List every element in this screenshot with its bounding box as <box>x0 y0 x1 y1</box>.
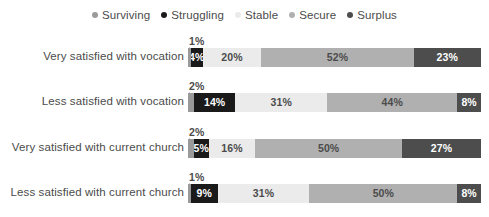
legend-swatch-icon <box>289 12 295 18</box>
legend-item-label: Surplus <box>357 9 397 21</box>
bar-segment-struggling[interactable]: 4% <box>191 48 203 67</box>
legend-item-struggling[interactable]: Struggling <box>161 9 224 21</box>
legend-swatch-icon <box>235 12 241 18</box>
bar-segment-stable[interactable]: 31% <box>218 184 310 203</box>
legend-item-label: Struggling <box>171 9 224 21</box>
legend-item-secure[interactable]: Secure <box>289 9 336 21</box>
bar-segment-secure[interactable]: 52% <box>261 48 413 67</box>
bar-segment-value: 5% <box>194 143 209 154</box>
legend-item-surviving[interactable]: Surviving <box>92 9 150 21</box>
bar-segment-value: 50% <box>318 143 339 154</box>
category-label: Very satisfied with vocation <box>43 50 184 63</box>
legend-item-label: Secure <box>299 9 336 21</box>
stacked-bar: 2%14%31%44%8% <box>188 93 481 112</box>
bar-segment-value: 44% <box>382 97 403 108</box>
bar-segment-value: 8% <box>461 97 476 108</box>
legend-item-surplus[interactable]: Surplus <box>347 9 397 21</box>
legend-item-label: Surviving <box>102 9 150 21</box>
bar-segment-value: 50% <box>373 188 394 199</box>
bar-segment-surplus[interactable]: 8% <box>457 93 481 112</box>
bar-segment-surplus[interactable]: 27% <box>402 139 481 158</box>
segment-callout-label: 2% <box>189 127 204 138</box>
legend-item-label: Stable <box>245 9 278 21</box>
bar-segment-surplus[interactable]: 8% <box>457 184 481 203</box>
stacked-bar: 1%9%31%50%8% <box>188 184 481 203</box>
segment-callout-label: 1% <box>189 172 204 183</box>
legend-swatch-icon <box>161 12 167 18</box>
bar-segment-value: 9% <box>197 188 212 199</box>
bar-segment-value: 31% <box>271 97 292 108</box>
bar-segment-surplus[interactable]: 23% <box>414 48 481 67</box>
bar-segment-secure[interactable]: 44% <box>327 93 457 112</box>
chart-legend: SurvivingStrugglingStableSecureSurplus <box>0 9 489 21</box>
bar-segment-stable[interactable]: 31% <box>235 93 327 112</box>
segment-callout-label: 1% <box>189 36 204 47</box>
stacked-bar: 2%5%16%50%27% <box>188 139 481 158</box>
chart-plot-area: Very satisfied with vocation1%1%4%20%52%… <box>0 30 489 217</box>
bar-segment-value: 8% <box>461 188 476 199</box>
category-label: Very satisfied with current church <box>12 141 184 154</box>
legend-swatch-icon <box>347 12 353 18</box>
bar-segment-value: 20% <box>221 52 242 63</box>
legend-swatch-icon <box>92 12 98 18</box>
category-label: Less satisfied with current church <box>11 186 184 199</box>
segment-callout-label: 2% <box>189 81 204 92</box>
bar-segment-value: 31% <box>253 188 274 199</box>
bar-segment-value: 16% <box>221 143 242 154</box>
category-label: Less satisfied with vocation <box>42 95 184 108</box>
bar-segment-secure[interactable]: 50% <box>309 184 457 203</box>
chart-row: Less satisfied with vocation2%2%14%31%44… <box>0 81 489 121</box>
bar-segment-value: 14% <box>204 97 225 108</box>
chart-row: Very satisfied with vocation1%1%4%20%52%… <box>0 36 489 76</box>
bar-segment-value: 52% <box>327 52 348 63</box>
stacked-bar-chart: SurvivingStrugglingStableSecureSurplus V… <box>0 0 489 217</box>
bar-segment-value: 27% <box>431 143 452 154</box>
chart-row: Less satisfied with current church1%1%9%… <box>0 172 489 212</box>
bar-segment-secure[interactable]: 50% <box>255 139 402 158</box>
bar-segment-struggling[interactable]: 5% <box>194 139 209 158</box>
legend-item-stable[interactable]: Stable <box>235 9 278 21</box>
bar-segment-struggling[interactable]: 14% <box>194 93 235 112</box>
bar-segment-value: 23% <box>437 52 458 63</box>
chart-row: Very satisfied with current church2%2%5%… <box>0 127 489 167</box>
bar-segment-stable[interactable]: 16% <box>209 139 256 158</box>
bar-segment-value: 4% <box>191 52 203 63</box>
bar-segment-stable[interactable]: 20% <box>203 48 262 67</box>
bar-segment-struggling[interactable]: 9% <box>191 184 218 203</box>
stacked-bar: 1%4%20%52%23% <box>188 48 481 67</box>
